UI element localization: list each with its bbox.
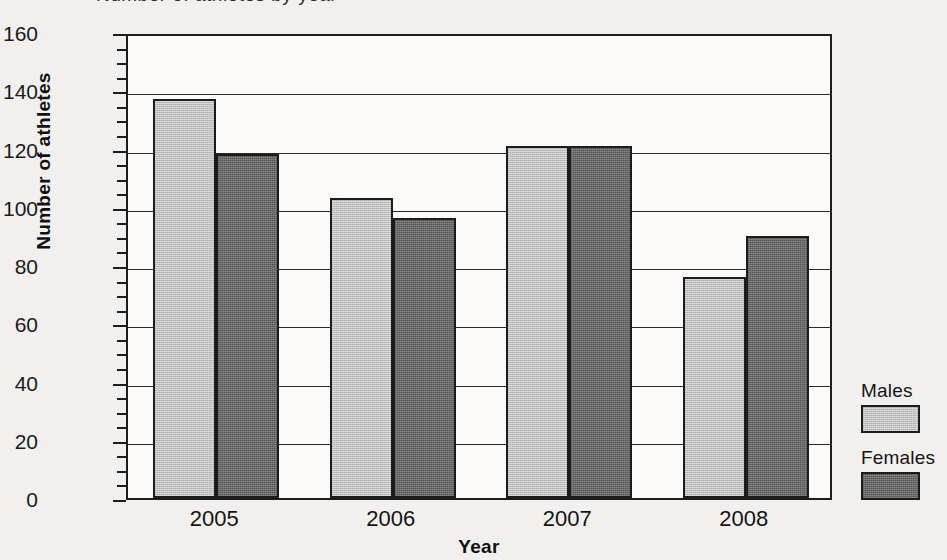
y-tick-minor [117,398,126,400]
y-tick-minor [117,354,126,356]
bar-2007-males [506,146,569,498]
x-tick-label-2005: 2005 [190,506,239,532]
y-tick-major [113,92,126,94]
y-tick-major [113,384,126,386]
y-tick-minor [117,194,126,196]
bar-2006-males [330,198,393,498]
y-tick-major [113,151,126,153]
chart-figure: Number of athletes by year Number of ath… [0,0,947,560]
x-tick-label-2006: 2006 [366,506,415,532]
y-tick-major [113,209,126,211]
y-tick-minor [117,296,126,298]
y-tick-label: 20 [15,430,38,454]
y-tick-minor [117,252,126,254]
bar-2005-males [153,99,216,498]
y-tick-minor [117,107,126,109]
y-tick-minor [117,311,126,313]
y-tick-minor [117,485,126,487]
x-axis-title: Year [458,536,499,558]
y-tick-label: 120 [3,139,38,163]
y-tick-major [113,34,126,36]
bar-2008-females [746,236,809,498]
y-tick-major [113,500,126,502]
legend-entry-males: Males [861,380,947,433]
y-tick-minor [117,165,126,167]
y-tick-label: 60 [15,313,38,337]
y-tick-major [113,442,126,444]
legend-entry-females: Females [861,447,947,500]
y-tick-minor [117,49,126,51]
y-tick-minor [117,471,126,473]
y-axis: Number of athletes 020406080100120140160 [0,0,126,560]
bar-2006-females [393,218,456,498]
gridline [128,94,830,95]
y-tick-major [113,267,126,269]
x-tick-label-2008: 2008 [719,506,768,532]
y-tick-label: 140 [3,80,38,104]
bar-2005-females [216,154,279,498]
clipped-header-text: Number of athletes by year [96,0,337,6]
y-tick-label: 160 [3,22,38,46]
y-tick-minor [117,78,126,80]
legend-label-males: Males [861,380,947,402]
y-tick-minor [117,456,126,458]
y-tick-minor [117,369,126,371]
y-tick-minor [117,63,126,65]
y-tick-label: 0 [26,488,38,512]
legend-swatch-females [861,472,920,500]
y-tick-minor [117,180,126,182]
bar-2008-males [683,277,746,498]
legend-label-females: Females [861,447,947,469]
y-tick-minor [117,282,126,284]
y-tick-label: 40 [15,372,38,396]
y-tick-minor [117,413,126,415]
y-tick-label: 80 [15,255,38,279]
y-tick-minor [117,238,126,240]
bar-2007-females [569,146,632,498]
y-tick-minor [117,427,126,429]
y-tick-minor [117,223,126,225]
y-tick-minor [117,121,126,123]
y-tick-minor [117,340,126,342]
y-tick-major [113,325,126,327]
y-tick-label: 100 [3,197,38,221]
legend-swatch-males [861,405,920,433]
x-tick-label-2007: 2007 [543,506,592,532]
y-tick-minor [117,136,126,138]
plot-area [126,34,832,500]
legend: Males Females [861,380,947,514]
